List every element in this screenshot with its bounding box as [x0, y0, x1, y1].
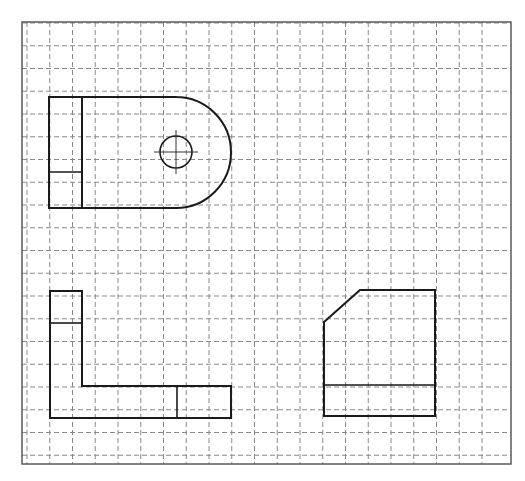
drawing-canvas — [0, 0, 525, 481]
background — [0, 0, 525, 481]
